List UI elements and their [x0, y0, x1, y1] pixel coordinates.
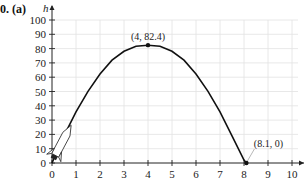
landing-label: (8.1, 0)	[254, 138, 283, 150]
x-tick-label: 10	[287, 168, 299, 180]
y-tick-label: 0	[41, 157, 47, 169]
y-tick-label: 20	[35, 128, 47, 140]
y-tick-label: 10	[35, 143, 47, 155]
tick-labels: h0123456789100102030405060708090100	[30, 2, 299, 180]
vertex-point	[146, 43, 150, 47]
y-tick-label: 70	[35, 57, 47, 69]
rocket-icon	[46, 122, 78, 163]
x-tick-label: 0	[49, 168, 55, 180]
x-tick-label: 7	[217, 168, 223, 180]
y-tick-label: 40	[35, 100, 47, 112]
y-axis-arrow-icon	[50, 5, 55, 10]
y-tick-label: 50	[35, 86, 47, 98]
x-tick-label: 9	[265, 168, 271, 180]
y-tick-label: 90	[35, 28, 47, 40]
landing-point	[244, 161, 248, 165]
y-axis-label: h	[43, 2, 49, 14]
annotations: (4, 82.4)(8.1, 0)	[131, 31, 283, 165]
y-tick-label: 30	[35, 114, 47, 126]
x-tick-label: 6	[193, 168, 199, 180]
x-tick-label: 3	[121, 168, 127, 180]
x-tick-label: 5	[169, 168, 175, 180]
x-tick-label: 8	[241, 168, 247, 180]
vertex-label: (4, 82.4)	[131, 31, 165, 43]
x-tick-label: 1	[73, 168, 79, 180]
trajectory-chart: h0123456789100102030405060708090100 (4, …	[0, 0, 307, 184]
y-tick-label: 60	[35, 71, 47, 83]
y-tick-label: 80	[35, 43, 47, 55]
y-tick-label: 100	[30, 14, 47, 26]
x-axis-arrow-icon	[299, 161, 304, 166]
x-tick-label: 2	[97, 168, 103, 180]
x-tick-label: 4	[145, 168, 151, 180]
